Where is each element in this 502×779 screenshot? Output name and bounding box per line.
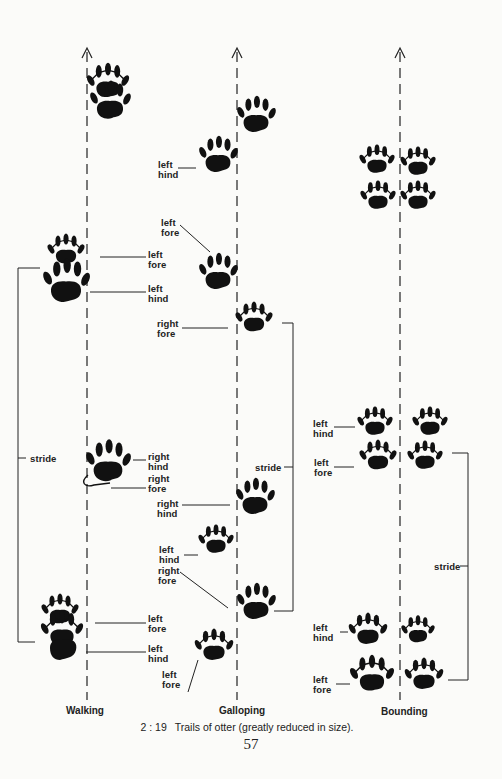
figure-caption-text: Trails of otter (greatly reduced in size… <box>175 721 354 733</box>
galloping-label-right-fore-2: right fore <box>158 566 180 586</box>
figure-caption: 2 : 19Trails of otter (greatly reduced i… <box>0 721 502 733</box>
walking-label-right-fore: right fore <box>148 474 170 494</box>
walking-paw-top <box>85 63 132 119</box>
galloping-label-right-hind: right hind <box>157 499 179 519</box>
walking-title: Walking <box>66 705 104 716</box>
walking-paw-3 <box>39 594 84 661</box>
otter-trail-diagram <box>0 0 502 779</box>
book-page: left fore left hind stride right hind ri… <box>0 0 502 779</box>
bounding-stride-label: stride <box>434 562 460 572</box>
figure-number: 2 : 19 <box>140 721 166 733</box>
galloping-label-left-hind-2: left hind <box>159 545 179 565</box>
galloping-paws <box>193 96 277 660</box>
bounding-label-left-hind-2: left hind <box>313 623 333 643</box>
bounding-title: Bounding <box>381 706 428 717</box>
galloping-leader-lines <box>178 168 293 692</box>
galloping-label-left-fore-1: left fore <box>161 218 179 238</box>
galloping-title: Galloping <box>219 705 265 716</box>
bounding-leader-lines <box>334 427 468 684</box>
walking-label-left-fore-1: left fore <box>148 250 166 270</box>
bounding-label-left-fore-2: left fore <box>313 675 331 695</box>
walking-paw-2 <box>84 439 133 486</box>
galloping-label-left-hind-1: left hind <box>158 160 178 180</box>
galloping-label-right-fore-1: right fore <box>157 319 179 339</box>
walking-center-line <box>82 48 92 700</box>
walking-paw-1 <box>41 234 91 302</box>
walking-label-left-hind-2: left hind <box>148 644 168 664</box>
page-number: 57 <box>0 736 502 753</box>
bounding-paws <box>347 144 449 690</box>
walking-label-right-hind: right hind <box>148 452 170 472</box>
galloping-label-left-fore-2: left fore <box>162 670 180 690</box>
walking-stride-label: stride <box>30 454 56 464</box>
walking-label-left-hind-1: left hind <box>148 284 168 304</box>
walking-label-left-fore-2: left fore <box>148 614 166 634</box>
bounding-label-left-fore-1: left fore <box>314 458 332 478</box>
bounding-center-line <box>395 48 405 700</box>
bounding-label-left-hind-1: left hind <box>313 419 333 439</box>
galloping-stride-label: stride <box>255 463 281 473</box>
